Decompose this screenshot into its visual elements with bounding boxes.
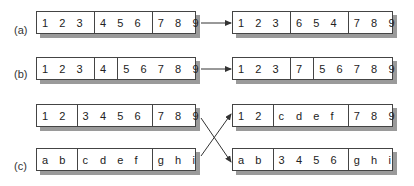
arrow-c-cross-down: [201, 118, 231, 162]
arrow-c-cross-up: [201, 114, 231, 156]
arrows-layer: [0, 0, 414, 186]
